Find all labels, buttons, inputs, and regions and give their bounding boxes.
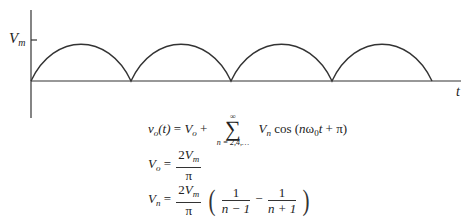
vm-tick-label: Vm [9,30,25,48]
fraction-2vm-over-pi: 2Vm π [176,183,201,217]
fraction-2vm-over-pi: 2Vm π [176,148,201,182]
fraction-1-over-n-plus-1: 1 n + 1 [268,186,296,215]
formula-vn: Vn = 2Vm π ( 1 n − 1 − 1 n + 1 ) [148,183,311,217]
paren-open: ( [208,183,215,217]
fraction-1-over-n-minus-1: 1 n − 1 [222,186,250,215]
rectified-sine-wave [31,44,432,81]
formula-vo-t: vo(t) = Vo + ∞ ∑ n = 2,4,… Vn cos (nω0t … [148,113,347,147]
paren-close: ) [303,183,310,217]
t-axis-label: t [456,84,460,100]
summation: ∞ ∑ n = 2,4,… [217,113,250,147]
formula-vo: Vo = 2Vm π [148,148,203,182]
diagram-canvas: Vm t vo(t) = Vo + ∞ ∑ n = 2,4,… Vn cos (… [0,0,473,224]
